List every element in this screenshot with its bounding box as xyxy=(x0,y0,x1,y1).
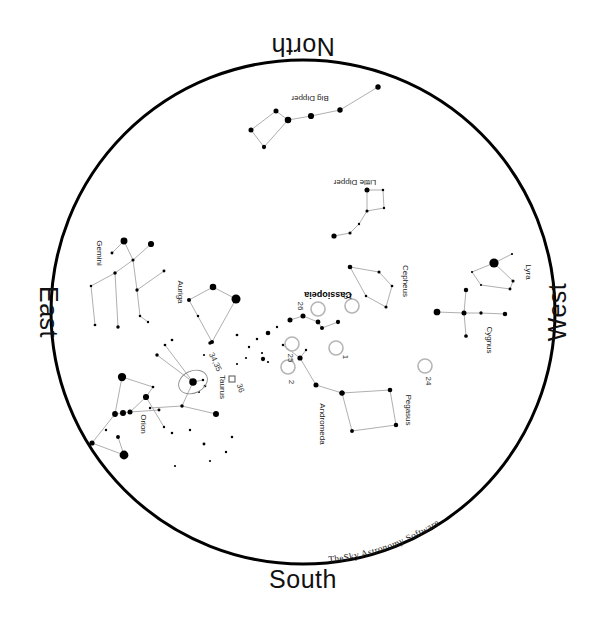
star xyxy=(113,271,117,275)
star xyxy=(375,84,380,89)
star xyxy=(382,189,385,192)
star xyxy=(287,317,292,322)
star xyxy=(171,432,174,435)
star xyxy=(305,349,307,351)
star xyxy=(313,382,318,387)
constellation-label: Taurus xyxy=(218,375,227,399)
star xyxy=(248,127,253,132)
star xyxy=(256,338,259,341)
star xyxy=(297,355,302,360)
star xyxy=(152,386,155,389)
star xyxy=(213,411,219,417)
star xyxy=(189,378,196,385)
star xyxy=(89,440,94,445)
star xyxy=(203,354,205,356)
star xyxy=(120,451,129,460)
constellation-label: Andromeda xyxy=(318,403,327,445)
star xyxy=(94,324,97,327)
star xyxy=(503,312,507,316)
constellation-label: Cassiopeia xyxy=(303,290,352,300)
star xyxy=(174,465,176,467)
star xyxy=(261,352,263,354)
star xyxy=(143,394,149,400)
star xyxy=(266,331,271,336)
star xyxy=(384,305,387,308)
chart-background xyxy=(0,0,607,625)
star xyxy=(116,325,120,329)
constellation-label: Pegasus xyxy=(404,394,413,425)
star xyxy=(248,346,250,348)
cardinal-east: East xyxy=(35,286,63,338)
star xyxy=(112,411,118,417)
star xyxy=(139,315,142,318)
star xyxy=(118,373,126,381)
sky-canvas[interactable]: 121024252634,3536 Big DipperLittle Dippe… xyxy=(0,0,607,625)
deepsky-object-number: 25 xyxy=(286,354,295,363)
star xyxy=(464,334,468,338)
star xyxy=(285,117,292,124)
star xyxy=(208,341,212,345)
star xyxy=(276,326,278,328)
star xyxy=(377,270,380,273)
deepsky-object-number: 1 xyxy=(341,355,350,360)
cardinal-south: South xyxy=(269,565,337,593)
star xyxy=(480,284,482,286)
star xyxy=(262,145,266,149)
constellation-label: Cepheus xyxy=(401,265,410,297)
star xyxy=(471,271,473,273)
star xyxy=(231,294,240,303)
star xyxy=(331,233,336,238)
star xyxy=(350,429,354,433)
star xyxy=(180,404,184,408)
star xyxy=(197,315,200,318)
star xyxy=(120,410,126,416)
star xyxy=(273,108,278,113)
star xyxy=(187,298,191,302)
star xyxy=(282,344,285,347)
star xyxy=(236,363,238,365)
star xyxy=(164,344,167,347)
constellation-label: Orion xyxy=(139,414,148,434)
star xyxy=(163,270,166,273)
star xyxy=(336,320,340,324)
star xyxy=(105,429,107,431)
star xyxy=(210,284,217,291)
star xyxy=(364,187,369,192)
star xyxy=(391,285,394,288)
star xyxy=(90,285,93,288)
cardinal-west: West xyxy=(543,283,571,342)
star xyxy=(511,253,513,255)
constellation-label: Auriga xyxy=(176,280,185,304)
star xyxy=(158,409,161,412)
cardinal-north: North xyxy=(271,33,335,61)
star xyxy=(300,313,305,318)
star xyxy=(171,339,174,342)
star xyxy=(316,320,321,325)
star xyxy=(231,436,234,439)
constellation-label: Big Dipper xyxy=(291,94,329,103)
deepsky-object-number: 24 xyxy=(424,377,433,386)
star xyxy=(320,326,324,330)
star xyxy=(489,258,498,267)
star xyxy=(348,265,353,270)
constellation-label: Lyra xyxy=(524,264,533,280)
star xyxy=(337,107,342,112)
star xyxy=(308,113,314,119)
deepsky-object-number: 2 xyxy=(287,380,296,385)
star xyxy=(155,353,159,357)
star xyxy=(127,409,132,414)
star xyxy=(189,429,191,431)
star xyxy=(147,321,149,323)
star xyxy=(339,390,344,395)
constellation-label: Little Dipper xyxy=(333,178,376,187)
star xyxy=(225,451,227,453)
star xyxy=(509,288,512,291)
star xyxy=(261,357,265,361)
star xyxy=(148,241,154,247)
star xyxy=(434,309,441,316)
star xyxy=(461,310,466,315)
star xyxy=(135,288,138,291)
star xyxy=(464,288,468,292)
star-chart: 121024252634,3536 Big DipperLittle Dippe… xyxy=(0,0,607,625)
star xyxy=(163,426,165,428)
